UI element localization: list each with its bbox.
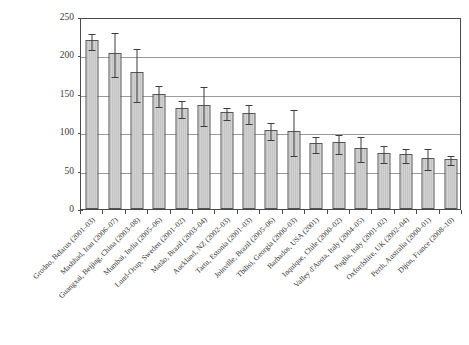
error-bar-cap-lower xyxy=(313,153,320,154)
error-bar xyxy=(271,123,272,141)
bar xyxy=(175,108,188,209)
error-bar-cap-upper xyxy=(246,105,253,106)
plot-area xyxy=(80,18,461,210)
error-bar xyxy=(92,34,93,50)
x-tick-label: Perth, Australia (2000–01) xyxy=(286,216,433,345)
error-bar xyxy=(405,149,406,163)
error-bar-cap-upper xyxy=(134,49,141,50)
error-bar-cap-lower xyxy=(425,170,432,171)
bar-group xyxy=(328,19,350,209)
error-bar-cap-upper xyxy=(425,149,432,150)
error-bar xyxy=(226,108,227,120)
bar-group xyxy=(395,19,417,209)
y-axis: Standardized incidence (n/100,000/year) xyxy=(40,18,76,210)
bar-group xyxy=(440,19,462,209)
error-bar-cap-lower xyxy=(111,77,118,78)
x-tick-label: Dijon, France (2008–10) xyxy=(308,216,455,345)
error-bar xyxy=(159,86,160,108)
error-bar-cap-upper xyxy=(223,108,230,109)
x-axis-tick-labels: Grodno, Belarus (2001–03)Mashhad, Iran (… xyxy=(0,214,469,324)
error-bar-cap-upper xyxy=(290,110,297,111)
y-tick-label-50: 50 xyxy=(46,167,74,177)
error-bar xyxy=(316,137,317,153)
bar-series xyxy=(81,19,460,209)
error-bar xyxy=(428,149,429,170)
error-bar-cap-lower xyxy=(268,140,275,141)
y-tick-label-200: 200 xyxy=(46,51,74,61)
error-bar-cap-lower xyxy=(380,163,387,164)
error-bar-cap-lower xyxy=(447,165,454,166)
error-bar xyxy=(383,146,384,164)
error-bar-cap-upper xyxy=(402,149,409,150)
bar xyxy=(265,130,278,209)
bar-group xyxy=(171,19,193,209)
error-bar-cap-upper xyxy=(201,87,208,88)
bar-group xyxy=(372,19,394,209)
bar-group xyxy=(305,19,327,209)
bar-group xyxy=(283,19,305,209)
bar-group xyxy=(193,19,215,209)
bar-group xyxy=(103,19,125,209)
error-bar-cap-upper xyxy=(313,137,320,138)
error-bar-cap-upper xyxy=(335,135,342,136)
bar xyxy=(243,113,256,209)
error-bar-cap-upper xyxy=(268,123,275,124)
bar xyxy=(444,159,457,209)
error-bar xyxy=(137,49,138,102)
error-bar xyxy=(204,87,205,125)
error-bar xyxy=(249,105,250,124)
error-bar xyxy=(293,110,294,155)
error-bar-cap-lower xyxy=(358,162,365,163)
error-bar-cap-upper xyxy=(89,34,96,35)
error-bar-cap-upper xyxy=(111,33,118,34)
figure-panel: Standardized incidence (n/100,000/year) … xyxy=(0,0,469,345)
bar-group xyxy=(81,19,103,209)
y-tick-label-150: 150 xyxy=(46,90,74,100)
error-bar-cap-upper xyxy=(447,156,454,157)
error-bar-cap-upper xyxy=(178,101,185,102)
error-bar-cap-lower xyxy=(201,126,208,127)
error-bar-cap-lower xyxy=(402,163,409,164)
bar-group xyxy=(260,19,282,209)
bar xyxy=(220,112,233,209)
error-bar-cap-lower xyxy=(223,120,230,121)
error-bar-cap-lower xyxy=(134,102,141,103)
bar-group xyxy=(350,19,372,209)
error-bar xyxy=(181,101,182,118)
error-bar-cap-upper xyxy=(156,86,163,87)
error-bar-cap-lower xyxy=(246,124,253,125)
y-tick-label-250: 250 xyxy=(46,13,74,23)
bar-group xyxy=(148,19,170,209)
error-bar-cap-lower xyxy=(335,154,342,155)
error-bar xyxy=(114,33,115,78)
error-bar xyxy=(450,156,451,164)
bar xyxy=(86,40,99,209)
error-bar xyxy=(361,137,362,162)
error-bar-cap-lower xyxy=(178,118,185,119)
bar-group xyxy=(215,19,237,209)
bar-group xyxy=(238,19,260,209)
error-bar-cap-upper xyxy=(380,146,387,147)
error-bar-cap-lower xyxy=(89,50,96,51)
error-bar-cap-lower xyxy=(156,107,163,108)
bar-group xyxy=(417,19,439,209)
cropped-top-text xyxy=(0,0,469,8)
error-bar-cap-upper xyxy=(358,137,365,138)
error-bar xyxy=(338,135,339,154)
error-bar-cap-lower xyxy=(290,156,297,157)
bar-group xyxy=(126,19,148,209)
bar xyxy=(153,94,166,209)
y-tick-label-100: 100 xyxy=(46,128,74,138)
